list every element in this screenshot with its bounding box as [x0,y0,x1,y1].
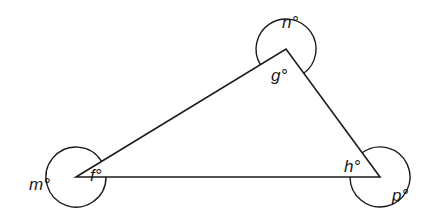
angle-label-g: g° [271,66,287,85]
angle-label-n: n° [282,13,298,32]
angle-label-f: f° [90,166,102,185]
angle-label-m: m° [29,175,50,194]
triangle [76,49,380,177]
angle-label-p: p° [391,186,408,205]
triangle-diagram: f° g° h° m° n° p° [0,0,436,224]
angle-label-h: h° [344,157,360,176]
